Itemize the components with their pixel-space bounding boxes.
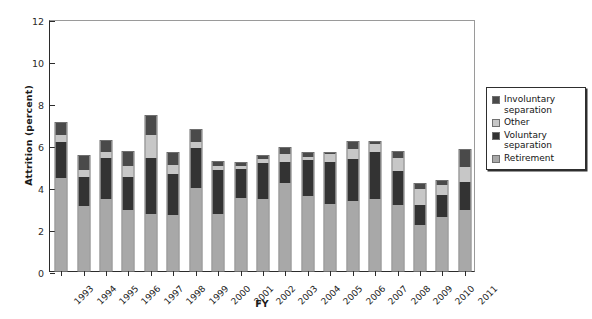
y-tick-label: 2	[38, 226, 44, 237]
bar-slot	[185, 21, 207, 271]
stacked-bar[interactable]	[302, 153, 313, 271]
bar-segment-voluntary-separation	[123, 177, 134, 211]
y-axis-title: Attrition (percent)	[23, 56, 34, 216]
bar-segment-voluntary-separation	[190, 148, 201, 188]
x-tick-mark	[241, 271, 242, 276]
bar-slot	[117, 21, 139, 271]
legend-item-label: Voluntary separation	[504, 130, 581, 151]
stacked-bar[interactable]	[459, 150, 470, 271]
bar-segment-other	[347, 149, 358, 158]
stacked-bar[interactable]	[280, 148, 291, 271]
bar-segment-voluntary-separation	[459, 182, 470, 210]
bar-segment-involuntary-separation	[145, 116, 156, 135]
y-tick-mark	[50, 273, 55, 274]
plot-area: 024681012	[49, 20, 475, 272]
bar-slot	[207, 21, 229, 271]
bar-segment-retirement	[392, 205, 403, 271]
legend-swatch-icon	[492, 96, 500, 104]
bar-segment-voluntary-separation	[145, 158, 156, 215]
stacked-bar[interactable]	[257, 156, 268, 271]
bar-segment-voluntary-separation	[78, 177, 89, 206]
bar-segment-retirement	[56, 178, 67, 271]
x-tick-mark	[128, 271, 129, 276]
bar-segment-involuntary-separation	[347, 142, 358, 149]
stacked-bar[interactable]	[414, 184, 425, 271]
legend-item[interactable]: Voluntary separation	[492, 130, 581, 151]
stacked-bar[interactable]	[437, 181, 448, 271]
x-tick-mark	[61, 271, 62, 276]
bar-segment-retirement	[459, 210, 470, 271]
bar-segment-voluntary-separation	[235, 169, 246, 197]
bar-slot	[95, 21, 117, 271]
attrition-stacked-bar-chart: Attrition (percent) 024681012 1993199419…	[0, 0, 592, 319]
legend-item[interactable]: Involuntary separation	[492, 94, 581, 115]
bar-slot	[319, 21, 341, 271]
stacked-bar[interactable]	[78, 156, 89, 271]
stacked-bar[interactable]	[168, 153, 179, 271]
stacked-bar[interactable]	[370, 142, 381, 271]
bar-slot	[252, 21, 274, 271]
bar-segment-voluntary-separation	[168, 174, 179, 215]
bar-slot	[297, 21, 319, 271]
bar-segment-retirement	[78, 206, 89, 271]
stacked-bar[interactable]	[145, 116, 156, 271]
bar-segment-voluntary-separation	[302, 160, 313, 197]
bar-slot	[409, 21, 431, 271]
bar-segment-voluntary-separation	[437, 195, 448, 217]
x-tick-mark	[285, 271, 286, 276]
bar-segment-retirement	[213, 214, 224, 271]
bar-segment-other	[437, 185, 448, 196]
bar-segment-retirement	[145, 214, 156, 271]
bar-segment-retirement	[101, 199, 112, 271]
stacked-bar[interactable]	[56, 123, 67, 271]
bar-segment-retirement	[437, 217, 448, 271]
bar-segment-involuntary-separation	[56, 123, 67, 135]
legend-item[interactable]: Retirement	[492, 153, 581, 164]
stacked-bar[interactable]	[190, 130, 201, 271]
legend-swatch-icon	[492, 132, 500, 140]
bar-segment-involuntary-separation	[101, 141, 112, 153]
stacked-bar[interactable]	[123, 152, 134, 271]
bar-segment-voluntary-separation	[392, 171, 403, 205]
x-tick-mark	[330, 271, 331, 276]
bar-slot	[364, 21, 386, 271]
bar-segment-retirement	[235, 198, 246, 272]
bar-segment-other	[145, 135, 156, 158]
bar-segment-retirement	[370, 199, 381, 271]
bar-segment-retirement	[347, 201, 358, 271]
bar-segment-involuntary-separation	[78, 156, 89, 171]
bar-slot	[140, 21, 162, 271]
bar-segment-other	[56, 135, 67, 142]
legend-item-label: Other	[504, 117, 530, 128]
stacked-bar[interactable]	[101, 141, 112, 271]
stacked-bar[interactable]	[347, 142, 358, 271]
stacked-bar[interactable]	[325, 153, 336, 271]
bar-segment-other	[414, 189, 425, 205]
bar-segment-voluntary-separation	[325, 162, 336, 204]
bar-slot	[431, 21, 453, 271]
bar-slot	[50, 21, 72, 271]
bar-segment-involuntary-separation	[190, 130, 201, 142]
x-tick-mark	[196, 271, 197, 276]
x-tick-mark	[151, 271, 152, 276]
bar-slot	[341, 21, 363, 271]
x-tick-mark	[218, 271, 219, 276]
bar-slot	[229, 21, 251, 271]
legend-item[interactable]: Other	[492, 117, 581, 128]
stacked-bar[interactable]	[235, 163, 246, 271]
bar-segment-voluntary-separation	[257, 163, 268, 199]
bar-segment-involuntary-separation	[168, 153, 179, 165]
x-tick-mark	[442, 271, 443, 276]
bar-segment-retirement	[302, 196, 313, 271]
bar-segment-other	[168, 165, 179, 174]
x-tick-mark	[420, 271, 421, 276]
stacked-bar[interactable]	[392, 152, 403, 271]
legend-swatch-icon	[492, 119, 500, 127]
bar-segment-involuntary-separation	[123, 152, 134, 166]
bar-segment-voluntary-separation	[414, 205, 425, 225]
y-tick-label: 8	[38, 100, 44, 111]
bar-slot	[454, 21, 476, 271]
x-tick-mark	[353, 271, 354, 276]
stacked-bar[interactable]	[213, 162, 224, 271]
x-axis-title: FY	[49, 298, 475, 309]
